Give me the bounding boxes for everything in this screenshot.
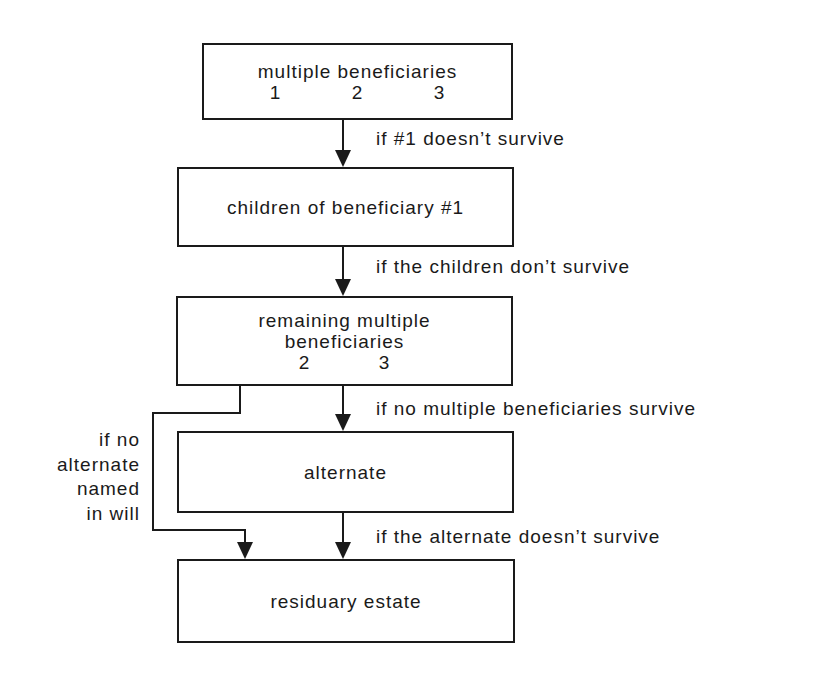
beneficiary-number: 1 [235,82,317,103]
box-remaining-multiple-beneficiaries: remaining multiple beneficiaries 2 3 [176,296,513,386]
beneficiary-numbers: 2 3 [265,352,425,373]
beneficiary-number: 3 [399,82,481,103]
box-residuary-estate: residuary estate [177,559,515,643]
bypass-label-line: named [30,477,140,502]
box-multiple-beneficiaries: multiple beneficiaries 1 2 3 [202,43,513,120]
beneficiary-number: 2 [265,352,345,373]
bypass-label-line: in will [30,502,140,527]
bypass-label-line: alternate [30,453,140,478]
beneficiary-numbers: 1 2 3 [235,82,481,103]
beneficiary-number: 2 [317,82,399,103]
box-label-line2: beneficiaries [285,331,405,352]
bypass-label-line: if no [30,428,140,453]
beneficiary-number: 3 [345,352,425,373]
edge-label: if the alternate doesn’t survive [376,526,660,548]
edge-label: if #1 doesn’t survive [376,128,565,150]
arrowhead-icon [335,279,351,296]
edge-label: if the children don’t survive [376,256,630,278]
bypass-edge-label: if no alternate named in will [30,428,140,526]
box-label: children of beneficiary #1 [227,197,464,218]
box-label: alternate [304,462,387,483]
box-label: multiple beneficiaries [258,61,457,82]
box-alternate: alternate [177,431,514,513]
box-label-line1: remaining multiple [258,310,430,331]
arrowhead-icon [335,150,351,167]
arrowhead-icon [335,542,351,559]
box-children-of-beneficiary-1: children of beneficiary #1 [177,167,514,247]
arrowhead-icon [237,542,253,559]
arrowhead-icon [335,414,351,431]
box-label: residuary estate [270,591,421,612]
edge-label: if no multiple beneficiaries survive [376,398,696,420]
